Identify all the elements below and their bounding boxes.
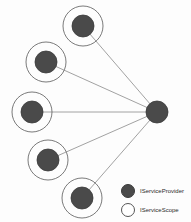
graph-edge [57, 116, 148, 156]
service-provider-node [71, 187, 93, 209]
service-provider-node [72, 15, 94, 37]
service-provider-node [21, 101, 43, 123]
hollow-circle-icon [121, 203, 135, 217]
service-provider-node [37, 149, 59, 171]
legend-label-scope: IServiceScope [140, 206, 179, 214]
legend-item-scope: IServiceScope [121, 200, 191, 219]
service-provider-node [146, 101, 168, 123]
legend-item-provider: IServiceProvider [121, 181, 191, 200]
legend-label-provider: IServiceProvider [140, 187, 184, 195]
graph-node [26, 42, 66, 82]
service-provider-node [35, 51, 57, 73]
graph-node [28, 140, 68, 180]
graph-node [63, 6, 103, 46]
graph-node [12, 92, 52, 132]
legend: IServiceProvider IServiceScope [121, 181, 191, 219]
graph-node [62, 178, 102, 218]
graph-edge [90, 34, 151, 105]
filled-circle-icon [121, 184, 135, 198]
graph-node [146, 101, 168, 123]
graph-edge [89, 120, 151, 191]
diagram-canvas: IServiceProvider IServiceScope [0, 0, 191, 222]
graph-edge [55, 66, 148, 108]
